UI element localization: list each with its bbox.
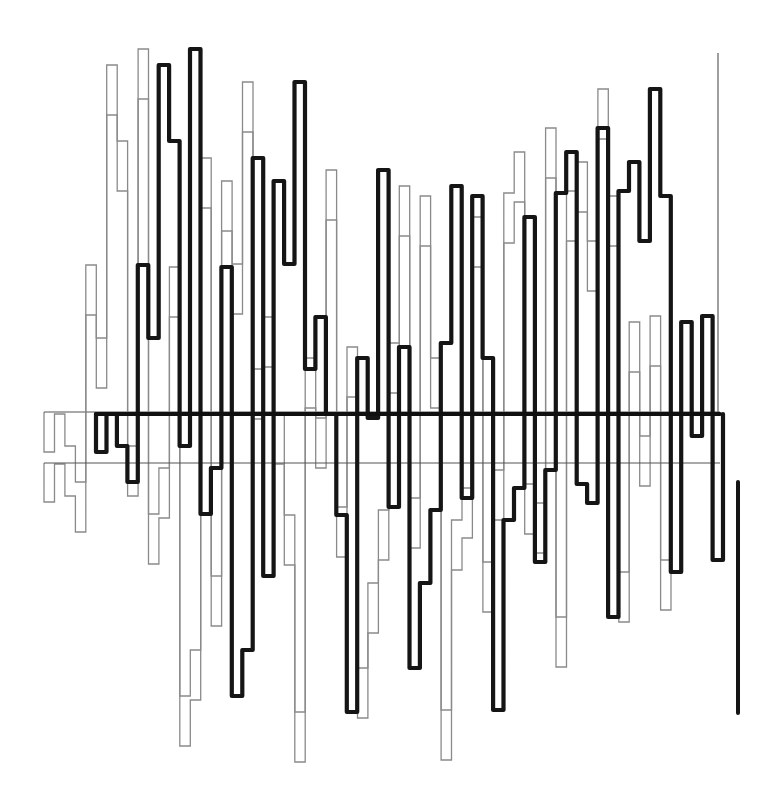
step-trace-artwork [0,0,783,797]
artwork-canvas [0,0,783,797]
primary-trace [96,49,738,713]
